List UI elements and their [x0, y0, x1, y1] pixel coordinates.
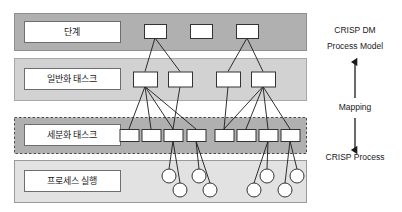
specialized-task-node[interactable]	[237, 130, 256, 142]
generic-task-node[interactable]	[169, 72, 193, 87]
specialized-task-node[interactable]	[164, 130, 183, 142]
band-label-phase: 단계	[64, 26, 80, 37]
annotations: CRISP DMProcess ModelMappingCRISP Proces…	[326, 25, 385, 162]
specialized-task-node[interactable]	[187, 130, 206, 142]
generic-task-node[interactable]	[217, 72, 241, 87]
specialized-task-node[interactable]	[142, 130, 161, 142]
band-label-generic-task: 일반화 태스크	[47, 74, 98, 84]
specialized-task-node[interactable]	[281, 130, 300, 142]
crisp-dm-diagram: 단계일반화 태스크세분화 태스크프로세스 실행CRISP DMProcess M…	[0, 0, 402, 212]
generic-task-node[interactable]	[134, 72, 158, 87]
process-instance-node[interactable]	[192, 169, 206, 183]
diagram-canvas: 단계일반화 태스크세분화 태스크프로세스 실행CRISP DMProcess M…	[0, 0, 402, 212]
generic-task-node[interactable]	[252, 72, 276, 87]
mapping-label: Mapping	[339, 102, 372, 112]
process-instance-node[interactable]	[203, 183, 217, 197]
specialized-task-node[interactable]	[120, 130, 139, 142]
specialized-task-node[interactable]	[259, 130, 278, 142]
process-instance-node[interactable]	[247, 183, 261, 197]
crisp-dm-label-line1: CRISP DM	[334, 25, 375, 35]
phase-node[interactable]	[237, 25, 259, 39]
process-instance-node[interactable]	[162, 169, 176, 183]
specialized-task-node[interactable]	[215, 130, 234, 142]
band-label-process-instance: 프로세스 실행	[47, 175, 98, 186]
process-instance-node[interactable]	[278, 183, 292, 197]
crisp-process-label: CRISP Process	[326, 152, 385, 162]
process-instance-node[interactable]	[173, 183, 187, 197]
phase-node[interactable]	[191, 25, 213, 39]
process-instance-node[interactable]	[260, 169, 274, 183]
band-label-specialized-task: 세분화 태스크	[47, 130, 98, 140]
crisp-dm-label-line2: Process Model	[327, 41, 383, 51]
phase-node[interactable]	[145, 25, 167, 39]
phase-nodes	[145, 25, 259, 39]
process-instance-node[interactable]	[290, 169, 304, 183]
